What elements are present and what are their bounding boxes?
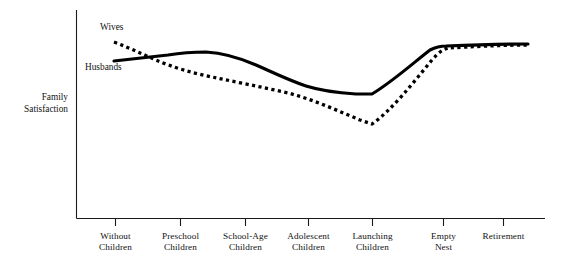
y-axis-title-line2: Satisfaction	[8, 104, 68, 116]
series-label-husbands: Husbands	[85, 62, 122, 73]
x-label-line1: Retirement	[463, 231, 544, 242]
x-label-launching-children: Launching Children	[332, 231, 413, 254]
y-axis-title-line1: Family	[8, 92, 68, 104]
series-label-wives: Wives	[100, 22, 123, 33]
x-label-retirement: Retirement	[463, 231, 544, 242]
x-label-line1: Launching	[332, 231, 413, 242]
x-axis-ticks	[116, 219, 504, 227]
y-axis-title: Family Satisfaction	[8, 92, 68, 115]
x-label-line2: Children	[332, 242, 413, 253]
axes-group	[77, 10, 546, 219]
x-label-line2: Nest	[403, 242, 484, 253]
family-satisfaction-chart: Family Satisfaction Wives Husbands Witho…	[0, 0, 572, 264]
chart-plot-area	[0, 0, 572, 264]
